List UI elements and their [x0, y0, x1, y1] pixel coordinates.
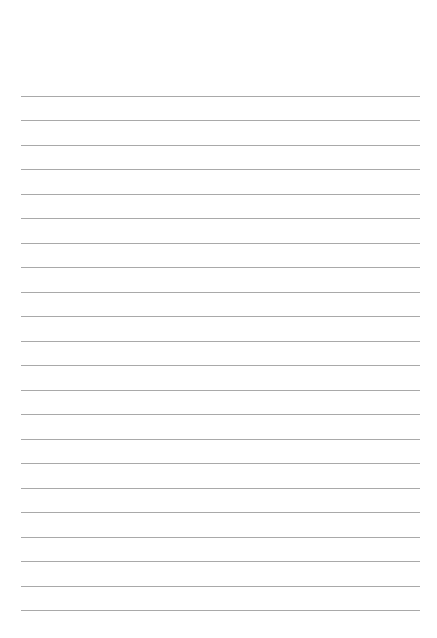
ruled-line: [21, 439, 420, 440]
lined-paper-page: [0, 0, 437, 638]
ruled-line: [21, 145, 420, 146]
ruled-line: [21, 537, 420, 538]
ruled-line: [21, 267, 420, 268]
ruled-line: [21, 414, 420, 415]
ruled-lines: [21, 0, 420, 638]
ruled-line: [21, 96, 420, 97]
ruled-line: [21, 316, 420, 317]
ruled-line: [21, 463, 420, 464]
ruled-line: [21, 561, 420, 562]
ruled-line: [21, 390, 420, 391]
ruled-line: [21, 610, 420, 611]
ruled-line: [21, 512, 420, 513]
ruled-line: [21, 169, 420, 170]
ruled-line: [21, 292, 420, 293]
ruled-line: [21, 488, 420, 489]
ruled-line: [21, 218, 420, 219]
ruled-line: [21, 243, 420, 244]
ruled-line: [21, 120, 420, 121]
ruled-line: [21, 586, 420, 587]
ruled-line: [21, 341, 420, 342]
ruled-line: [21, 365, 420, 366]
ruled-line: [21, 194, 420, 195]
